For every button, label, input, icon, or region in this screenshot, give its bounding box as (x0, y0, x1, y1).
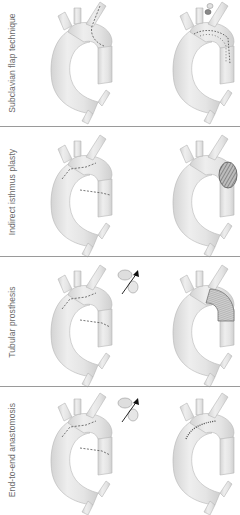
panel-indirect-isthmus-plasty: Indirect isthmus plasty (0, 127, 240, 256)
aorta-after-diagram (160, 393, 240, 515)
aorta-after-diagram (160, 2, 240, 124)
resected-segment-arrow-icon (116, 267, 144, 297)
panel-tubular-prosthesis: Tubular prosthesis (0, 257, 240, 386)
aorta-after-diagram (160, 265, 240, 387)
panel-label-text: Subclavian flap technique (7, 13, 17, 112)
aorta-before-diagram (38, 135, 118, 257)
panel-end-to-end-anastomosis: End-to-end anastomosis (0, 387, 240, 513)
aorta-before-diagram (38, 2, 118, 124)
panel-label: End-to-end anastomosis (2, 387, 22, 513)
panel-subclavian-flap: Subclavian flap technique (0, 0, 240, 126)
panel-label-text: Tubular prosthesis (7, 286, 17, 357)
scissors-icon (203, 2, 215, 16)
panel-label-text: End-to-end anastomosis (7, 403, 17, 497)
aorta-before-diagram (38, 393, 118, 515)
panel-label: Subclavian flap technique (2, 0, 22, 126)
resected-segment-arrow-icon (116, 395, 144, 425)
panel-label-text: Indirect isthmus plasty (7, 148, 17, 234)
aorta-before-diagram (38, 265, 118, 387)
panel-label: Tubular prosthesis (2, 257, 22, 386)
panel-label: Indirect isthmus plasty (2, 127, 22, 256)
aorta-after-diagram (160, 135, 240, 257)
